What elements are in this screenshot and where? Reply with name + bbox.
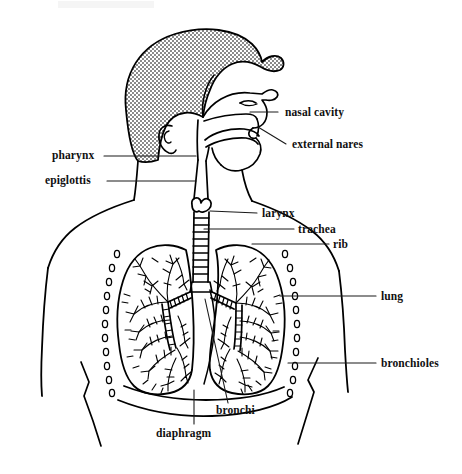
trachea-rings [193,218,209,274]
respiratory-system-figure: nasal cavity external nares pharynx epig… [0,0,462,474]
epiglottis-duct-left [194,160,198,199]
tongue-lower [206,138,258,147]
label-rib: rib [333,239,348,251]
leader-larynx [210,211,257,213]
anatomy-illustration [0,0,462,474]
pharynx-front-wall [206,147,209,161]
label-pharynx: pharynx [52,150,94,162]
bronchus-right-desc2 [240,305,242,351]
torso-right-side [339,271,348,392]
eye [240,101,256,103]
label-nasal-cavity: nasal cavity [285,107,344,119]
larynx [192,198,211,212]
trachea-left [193,212,194,282]
neck-front [242,170,252,201]
leader-bronchi [205,299,228,403]
face-profile [203,90,278,128]
torso-left-side [41,268,48,396]
bronchial-tree-left [122,255,191,393]
label-bronchioles: bronchioles [381,358,439,370]
bronchial-tree-right [214,256,282,394]
armpit-left [81,362,101,446]
label-external-nares: external nares [292,139,363,151]
diaphragm-upper [124,386,284,400]
hard-palate [204,114,257,121]
label-bronchi: bronchi [216,405,255,417]
chin-under [212,148,221,165]
torso-left-shoulder [48,200,134,268]
armpit-right [298,358,318,444]
label-lung: lung [381,291,403,303]
label-epiglottis: epiglottis [45,175,91,187]
pharynx-wall [197,120,198,160]
carina [190,282,212,292]
label-larynx: larynx [262,208,295,220]
leader-external-nares [258,127,286,144]
trachea-right [208,212,209,282]
bronchus-right-desc [234,303,236,349]
ear-inner [164,131,171,143]
label-diaphragm: diaphragm [156,428,211,440]
rib-markers [102,250,299,396]
epiglottis-duct-right [206,161,208,199]
label-trachea: trachea [298,224,336,236]
jaw-chin [221,138,261,171]
eyelid [240,103,257,105]
